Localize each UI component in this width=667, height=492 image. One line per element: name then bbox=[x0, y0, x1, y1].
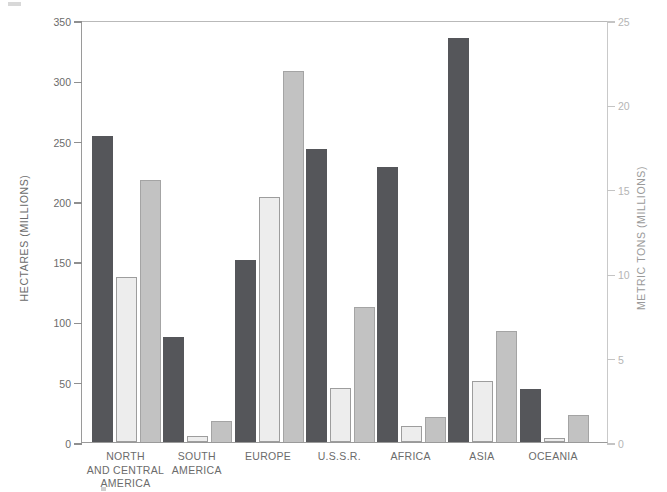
bar-group bbox=[306, 20, 378, 442]
bar-series-2 bbox=[401, 426, 422, 442]
right-axis-tick bbox=[607, 190, 615, 191]
bar-series-2 bbox=[544, 438, 565, 442]
bar-group bbox=[92, 20, 164, 442]
bar-series-3 bbox=[496, 331, 517, 442]
page-corner-mark bbox=[8, 2, 21, 6]
left-axis-tick-label: 150 bbox=[53, 257, 71, 269]
right-axis-tick-label: 25 bbox=[618, 16, 630, 28]
bar-series-2 bbox=[472, 381, 493, 442]
left-axis-tick-label: 300 bbox=[53, 76, 71, 88]
left-axis-tick-label: 0 bbox=[65, 438, 71, 450]
right-axis-tick-label: 0 bbox=[618, 438, 624, 450]
bar-series-2 bbox=[330, 388, 351, 442]
left-axis-tick-label: 250 bbox=[53, 137, 71, 149]
category-label: OCEANIA bbox=[505, 450, 602, 464]
bar-series-2 bbox=[259, 197, 280, 442]
left-axis-tick bbox=[74, 142, 82, 143]
bar-series-1 bbox=[92, 136, 113, 442]
bar-series-2 bbox=[187, 436, 208, 442]
bar-series-3 bbox=[211, 421, 232, 442]
left-axis-tick bbox=[74, 383, 82, 384]
bar-group bbox=[520, 20, 592, 442]
bar-group bbox=[377, 20, 449, 442]
right-axis-tick bbox=[607, 275, 615, 276]
bar-series-3 bbox=[140, 180, 161, 442]
category-label-line: AMERICA bbox=[77, 477, 174, 491]
bar-series-1 bbox=[163, 337, 184, 442]
bar-series-2 bbox=[116, 277, 137, 442]
category-label-line: AMERICA bbox=[148, 464, 245, 478]
right-axis-tick bbox=[607, 21, 615, 22]
left-axis-tick-label: 50 bbox=[59, 378, 71, 390]
left-axis-tick-label: 350 bbox=[53, 16, 71, 28]
bar-series-3 bbox=[354, 307, 375, 442]
bar-series-3 bbox=[425, 417, 446, 442]
plot-area: 0501001502002503003500510152025 bbox=[81, 21, 608, 443]
left-axis-tick-label: 200 bbox=[53, 197, 71, 209]
left-axis-tick bbox=[74, 82, 82, 83]
bar-series-1 bbox=[377, 167, 398, 442]
bar-group bbox=[235, 20, 307, 442]
bar-group bbox=[163, 20, 235, 442]
right-axis-tick-label: 10 bbox=[618, 269, 630, 281]
bar-group bbox=[448, 20, 520, 442]
bar-series-1 bbox=[448, 38, 469, 442]
bar-series-3 bbox=[568, 415, 589, 442]
bar-series-3 bbox=[283, 71, 304, 442]
right-axis-tick bbox=[607, 443, 615, 444]
left-axis-tick bbox=[74, 443, 82, 444]
right-axis-tick-label: 5 bbox=[618, 354, 624, 366]
right-axis-title: METRIC TONS (MILLIONS) bbox=[635, 163, 647, 313]
left-axis-tick bbox=[74, 262, 82, 263]
category-label-line: OCEANIA bbox=[505, 450, 602, 464]
right-axis-tick-label: 15 bbox=[618, 185, 630, 197]
left-axis-tick bbox=[74, 202, 82, 203]
right-axis-tick bbox=[607, 106, 615, 107]
bar-series-1 bbox=[520, 389, 541, 442]
bar-series-1 bbox=[235, 260, 256, 442]
left-axis-title: HECTARES (MILLIONS) bbox=[18, 163, 30, 313]
left-axis-tick-label: 100 bbox=[53, 317, 71, 329]
right-axis-tick bbox=[607, 359, 615, 360]
bar-series-1 bbox=[306, 149, 327, 442]
right-axis-tick-label: 20 bbox=[618, 100, 630, 112]
bar-chart: HECTARES (MILLIONS) METRIC TONS (MILLION… bbox=[0, 0, 667, 492]
left-axis-tick bbox=[74, 21, 82, 22]
left-axis-tick bbox=[74, 323, 82, 324]
